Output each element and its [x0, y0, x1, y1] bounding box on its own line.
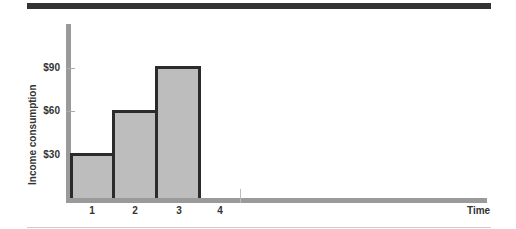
y-tick-label-90: $90 [30, 62, 60, 73]
y-tick-60 [66, 111, 75, 112]
y-tick-label-60: $60 [30, 105, 60, 116]
y-tick-label-30: $30 [30, 149, 60, 160]
bar-2 [112, 110, 158, 199]
y-tick-90 [66, 68, 75, 69]
bar-1 [70, 153, 115, 199]
x-axis-marker [240, 189, 241, 203]
y-axis-title: Income consumption [27, 84, 38, 185]
x-tick-label-1: 1 [82, 205, 102, 216]
x-tick-label-4: 4 [210, 205, 230, 216]
bottom-rule [27, 227, 491, 228]
bar-3 [155, 66, 201, 199]
x-tick-label-2: 2 [125, 205, 145, 216]
x-tick-label-3: 3 [169, 205, 189, 216]
top-rule [27, 3, 491, 9]
x-axis-title: Time [467, 205, 490, 216]
x-axis [66, 198, 487, 203]
